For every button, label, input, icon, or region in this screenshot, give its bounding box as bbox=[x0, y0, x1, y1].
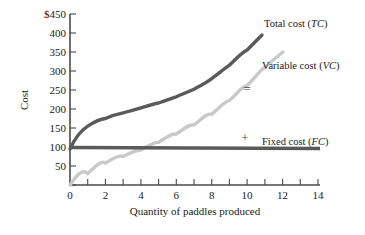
y-axis-title: Cost bbox=[18, 90, 30, 110]
x-tick-label-4: 4 bbox=[138, 189, 144, 201]
total-cost-label-abbrev: TC bbox=[311, 18, 325, 29]
x-tick-label-10: 10 bbox=[242, 189, 254, 201]
fixed-cost-label: Fixed cost (FC) bbox=[262, 136, 329, 148]
y-tick-label-250: 250 bbox=[50, 84, 67, 96]
y-tick-label-350: 350 bbox=[50, 46, 67, 58]
x-axis-tick-labels: 0 2 4 6 8 10 12 14 bbox=[67, 189, 324, 201]
variable-cost-label-suffix: ) bbox=[336, 60, 340, 72]
fixed-cost-label-prefix: Fixed cost ( bbox=[262, 136, 312, 148]
x-tick-label-12: 12 bbox=[277, 189, 288, 201]
x-axis-ticks bbox=[88, 179, 318, 185]
y-axis-ticks bbox=[70, 14, 76, 185]
x-tick-label-2: 2 bbox=[103, 189, 109, 201]
equals-sign-annotation: = bbox=[243, 81, 250, 96]
total-cost-curve bbox=[70, 35, 262, 149]
y-tick-label-300: 300 bbox=[50, 65, 67, 77]
x-tick-label-0: 0 bbox=[67, 189, 73, 201]
variable-cost-label-prefix: Variable cost ( bbox=[262, 60, 323, 72]
y-tick-label-450: $450 bbox=[44, 8, 67, 20]
fixed-cost-label-abbrev: FC bbox=[311, 136, 326, 147]
plus-sign-annotation: + bbox=[241, 130, 248, 145]
y-axis-tick-labels: 50 100 150 200 250 300 350 400 $450 bbox=[44, 8, 67, 172]
total-cost-label-prefix: Total cost ( bbox=[264, 18, 312, 30]
variable-cost-label: Variable cost (VC) bbox=[262, 60, 340, 72]
y-tick-label-200: 200 bbox=[50, 103, 67, 115]
y-tick-label-50: 50 bbox=[55, 160, 67, 172]
x-axis-title: Quantity of paddles produced bbox=[130, 205, 261, 217]
total-cost-label-suffix: ) bbox=[324, 18, 328, 30]
axes bbox=[70, 14, 320, 185]
x-tick-label-6: 6 bbox=[174, 189, 180, 201]
fixed-cost-line bbox=[70, 148, 320, 149]
cost-curves-chart: 50 100 150 200 250 300 350 400 $450 bbox=[0, 0, 365, 235]
y-tick-label-100: 100 bbox=[50, 141, 67, 153]
y-tick-label-400: 400 bbox=[50, 27, 67, 39]
y-tick-label-150: 150 bbox=[50, 122, 67, 134]
x-tick-label-14: 14 bbox=[313, 189, 325, 201]
total-cost-label: Total cost (TC) bbox=[264, 18, 328, 30]
chart-svg: 50 100 150 200 250 300 350 400 $450 bbox=[0, 0, 365, 235]
x-tick-label-8: 8 bbox=[209, 189, 215, 201]
variable-cost-label-abbrev: VC bbox=[323, 60, 337, 71]
fixed-cost-label-suffix: ) bbox=[325, 136, 329, 148]
